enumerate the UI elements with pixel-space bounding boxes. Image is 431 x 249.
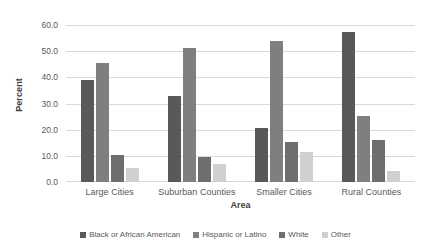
- bar: [372, 140, 385, 182]
- bar-group: [66, 25, 153, 182]
- x-axis-tick-labels: Large CitiesSuburban CountiesSmaller Cit…: [66, 184, 415, 200]
- legend-item[interactable]: White: [279, 231, 308, 239]
- y-axis-tick-labels: 0.010.020.030.040.050.060.0: [26, 25, 62, 182]
- y-axis-tick-label: 40.0: [41, 73, 58, 82]
- bar: [213, 164, 226, 182]
- x-axis-title: Area: [66, 200, 415, 210]
- bar: [270, 41, 283, 182]
- legend-swatch-icon: [322, 232, 328, 238]
- y-axis-tick-label: 10.0: [41, 152, 58, 161]
- y-axis-tick-label: 30.0: [41, 99, 58, 108]
- y-axis-tick-label: 60.0: [41, 21, 58, 30]
- plot-area: [66, 25, 415, 182]
- legend-label: Black or African American: [89, 231, 180, 239]
- bar: [300, 152, 313, 182]
- x-axis-tick-label: Smaller Cities: [241, 184, 328, 200]
- legend-item[interactable]: Other: [322, 231, 351, 239]
- legend-swatch-icon: [279, 232, 285, 238]
- legend-label: White: [288, 231, 308, 239]
- y-axis-tick-label: 0.0: [46, 178, 58, 187]
- x-axis-tick-label: Rural Counties: [328, 184, 415, 200]
- bar-chart: Percent 0.010.020.030.040.050.060.0 Larg…: [0, 0, 431, 249]
- legend-swatch-icon: [80, 232, 86, 238]
- legend-swatch-icon: [193, 232, 199, 238]
- bar: [357, 116, 370, 182]
- bar: [387, 171, 400, 182]
- legend-item[interactable]: Hispanic or Latino: [193, 231, 266, 239]
- bar: [255, 128, 268, 182]
- x-axis-tick-label: Large Cities: [66, 184, 153, 200]
- chart-legend: Black or African AmericanHispanic or Lat…: [0, 231, 431, 239]
- y-axis-tick-label: 20.0: [41, 125, 58, 134]
- x-axis-tick-label: Suburban Counties: [153, 184, 240, 200]
- bar: [168, 96, 181, 182]
- bar-group: [153, 25, 240, 182]
- y-axis-tick-label: 50.0: [41, 47, 58, 56]
- bar: [183, 48, 196, 182]
- bar-groups: [66, 25, 415, 182]
- legend-item[interactable]: Black or African American: [80, 231, 180, 239]
- y-axis-title-label: Percent: [14, 78, 24, 112]
- bar: [198, 157, 211, 182]
- bar: [342, 32, 355, 182]
- bar: [285, 142, 298, 182]
- bar: [126, 168, 139, 182]
- bar: [81, 80, 94, 182]
- legend-label: Hispanic or Latino: [202, 231, 266, 239]
- bar-group: [241, 25, 328, 182]
- bar: [96, 63, 109, 182]
- bar-group: [328, 25, 415, 182]
- legend-label: Other: [331, 231, 351, 239]
- y-axis-title: Percent: [11, 0, 27, 190]
- bar: [111, 155, 124, 182]
